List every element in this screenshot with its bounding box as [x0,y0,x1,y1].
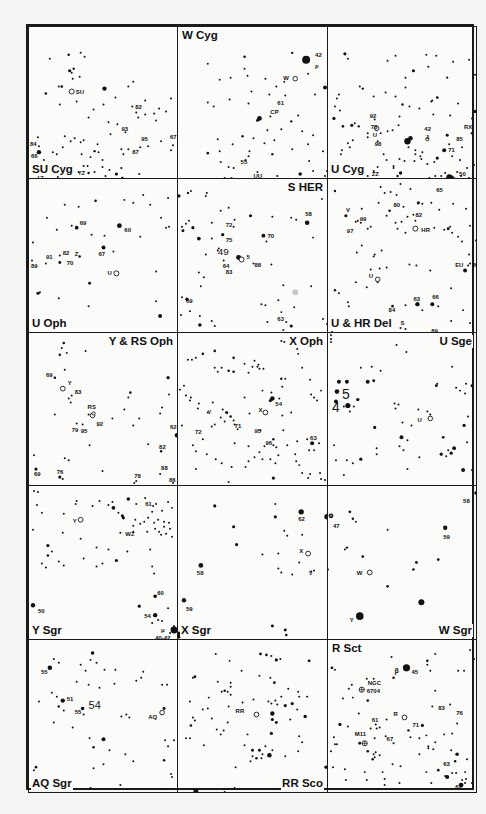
star-dot [391,656,393,658]
star-dot [286,444,288,446]
star-dot [283,530,285,532]
finder-chart-u-oph: 69606782Z918970UU Oph [28,178,178,333]
star-dot [79,76,81,78]
star-label: 84 [389,307,396,313]
star-dot [228,706,230,708]
star-dot [426,410,428,412]
star-dot [433,161,435,163]
star-dot [283,81,285,83]
star-dot [232,357,235,360]
star-dot [253,137,255,139]
star-dot [437,558,440,561]
star-dot [450,749,452,751]
star-dot [302,56,310,64]
star-dot [461,779,463,781]
star-dot [62,342,65,345]
star-dot [160,450,162,452]
star-dot [334,669,336,671]
star-dot [222,409,224,411]
cluster-icon [362,741,367,746]
star-label: 88 [161,465,168,471]
star-dot [280,128,282,130]
star-dot [355,281,357,283]
star-dot [380,370,382,372]
star-dot [217,371,219,373]
star-dot [347,725,349,727]
star-label: 61 [372,717,379,723]
star-dot [457,670,459,672]
star-dot [163,521,165,523]
star-dot [62,146,64,148]
star-dot [344,768,346,770]
star-field: 54U [328,333,476,485]
star-dot [414,220,416,222]
star-dot [270,655,272,657]
star-dot [168,394,170,396]
star-dot [74,137,76,139]
star-dot [41,512,43,514]
star-dot [138,417,140,419]
star-dot [290,120,292,122]
star-dot [224,420,226,422]
star-dot [445,455,447,457]
star-dot [330,750,332,752]
star-dot [421,151,423,153]
star-dot [224,791,226,792]
star-dot [153,613,157,617]
star-dot [76,681,78,683]
star-dot [415,264,417,266]
star-dot [58,86,60,88]
star-label: YZ [78,170,86,176]
star-dot [253,456,255,458]
star-dot [181,296,183,298]
star-dot [396,344,398,346]
star-dot [232,143,234,145]
star-dot [56,229,58,231]
star-dot [310,441,314,445]
star-dot [393,742,395,744]
star-label: Y [350,617,354,623]
star-dot [213,350,216,353]
star-dot [158,314,162,318]
star-dot [169,528,171,530]
star-dot [378,202,380,204]
star-dot [270,703,272,705]
star-dot [436,157,439,160]
star-dot [181,424,183,426]
star-dot [459,390,461,392]
star-dot [408,105,410,107]
star-dot [144,100,146,102]
star-dot [452,446,456,450]
star-dot [58,297,60,299]
finder-chart-u-cyg: 9278U98423RX8571ZZ50401U Cyg [327,26,477,179]
star-dot [88,684,90,686]
star-label: 50 [459,171,466,177]
star-dot [463,670,465,672]
star-dot [274,515,277,518]
star-dot [269,115,271,117]
star-label: 97 [347,228,354,234]
star-dot [267,701,269,703]
star-dot [203,744,205,746]
star-dot [324,175,326,177]
star-dot [68,69,71,72]
star-dot [149,204,151,206]
star-dot [277,553,279,555]
star-dot [64,204,66,206]
star-dot [135,503,137,505]
star-dot [421,724,424,727]
star-dot [276,175,278,177]
star-dot [107,504,109,506]
star-dot [432,113,434,115]
star-dot [37,136,39,138]
star-label: 85 [456,136,463,142]
star-dot [190,724,193,727]
star-dot [456,722,458,724]
star-dot [387,60,389,62]
star-dot [392,676,395,679]
star-dot [32,529,34,531]
star-dot [343,52,346,55]
star-label: 42 [424,126,431,132]
star-dot [83,165,85,167]
star-dot [402,421,404,423]
